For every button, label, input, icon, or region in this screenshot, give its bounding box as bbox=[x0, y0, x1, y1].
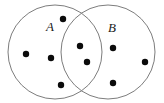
element-dot bbox=[142, 59, 148, 65]
set-circle-a bbox=[8, 5, 102, 99]
set-labels-group: A B bbox=[45, 19, 116, 35]
set-label-a: A bbox=[45, 19, 54, 34]
element-dot bbox=[110, 45, 116, 51]
element-dot bbox=[58, 82, 64, 88]
set-label-b: B bbox=[108, 20, 116, 35]
element-dot bbox=[77, 43, 83, 49]
venn-canvas: A B bbox=[0, 0, 164, 103]
set-circles-group bbox=[8, 5, 155, 99]
element-dot bbox=[23, 51, 29, 57]
element-dot bbox=[60, 16, 66, 22]
element-dot bbox=[48, 55, 54, 61]
element-dot bbox=[110, 80, 116, 86]
element-dots-group bbox=[23, 16, 148, 88]
venn-diagram: A B bbox=[0, 0, 164, 103]
element-dot bbox=[84, 59, 90, 65]
